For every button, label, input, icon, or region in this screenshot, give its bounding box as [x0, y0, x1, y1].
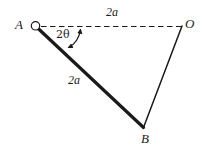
- point-label-O: O: [185, 17, 194, 30]
- segment-BO: [144, 26, 183, 128]
- angle-label-2theta: 2θ: [56, 29, 70, 40]
- angle-arc-arrow: [69, 30, 81, 48]
- point-label-B: B: [141, 132, 149, 145]
- pivot-circle-icon: [31, 22, 39, 30]
- geometry-figure: A O B 2a 2a 2θ: [0, 0, 207, 149]
- length-label-AO: 2a: [106, 6, 118, 18]
- length-label-AB: 2a: [68, 74, 80, 86]
- segment-AB-rod: [37, 27, 144, 128]
- point-label-A: A: [15, 18, 23, 31]
- figure-canvas: [0, 0, 207, 149]
